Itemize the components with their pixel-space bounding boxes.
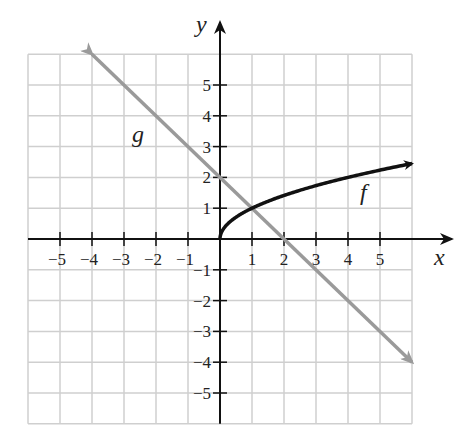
y-tick-label: 3 [203, 138, 212, 157]
y-tick-label: 5 [203, 76, 212, 95]
x-tick-label: 1 [248, 250, 257, 269]
y-tick-label: 1 [203, 199, 212, 218]
x-axis-label: x [433, 244, 445, 270]
x-tick-label: −5 [48, 250, 66, 269]
x-tick-label: −3 [112, 250, 130, 269]
x-tick-label: 5 [376, 250, 385, 269]
x-tick-label: −4 [80, 250, 99, 269]
y-tick-label: −2 [193, 292, 211, 311]
x-tick-label: 2 [280, 250, 289, 269]
y-tick-label: −3 [193, 322, 211, 341]
function-label-f: f [360, 179, 370, 205]
x-tick-label: 4 [344, 250, 353, 269]
coordinate-plane: −5−4−3−2−11234554321−1−2−3−4−5 x y g f [0, 0, 472, 447]
y-tick-label: −4 [193, 353, 212, 372]
y-tick-label: 4 [203, 107, 212, 126]
y-tick-label: 2 [203, 168, 212, 187]
x-tick-label: −2 [144, 250, 162, 269]
y-tick-label: −1 [193, 261, 211, 280]
y-tick-label: −5 [193, 384, 211, 403]
y-axis-label: y [194, 11, 207, 37]
function-label-g: g [132, 121, 144, 147]
x-tick-label: −1 [176, 250, 194, 269]
